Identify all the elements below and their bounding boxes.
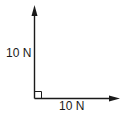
horizontal-arrowhead-icon [109,96,120,102]
vertical-force-label: 10 N [6,47,31,59]
horizontal-force-label: 10 N [59,100,84,112]
vertical-arrowhead-icon [32,5,38,16]
right-angle-marker-icon [35,92,42,99]
